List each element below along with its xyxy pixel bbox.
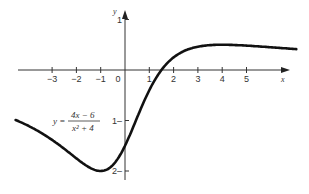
equation-label: y = 4x − 6 x² + 4 [52,110,100,133]
x-axis-arrow-icon [281,67,290,73]
x-tick-label: −1 [96,74,106,84]
y-tick-label: 2– [112,166,122,176]
y-ticks: 11–2– [112,15,129,177]
x-axis-label: x [280,75,285,84]
x-tick-label: −3 [47,74,57,84]
svg-text:y =: y = [52,116,65,126]
y-axis-arrow-icon [122,10,128,19]
y-tick-label: 1– [112,116,122,126]
y-tick-label: 1 [117,15,122,25]
x-tick-label: 0 [115,74,120,84]
svg-text:4x − 6: 4x − 6 [71,110,95,120]
x-tick-label: 4 [220,74,225,84]
svg-text:x² + 4: x² + 4 [71,123,94,133]
x-tick-label: 1 [147,74,152,84]
x-tick-label: −2 [71,74,81,84]
x-tick-label: 3 [195,74,200,84]
chart: −3−2−1012345 11–2– x y y = 4x − 6 x² + 4 [0,0,309,194]
x-tick-label: 5 [244,74,249,84]
function-curve [16,45,297,171]
y-axis-label: y [112,7,117,16]
x-tick-label: 2 [171,74,176,84]
